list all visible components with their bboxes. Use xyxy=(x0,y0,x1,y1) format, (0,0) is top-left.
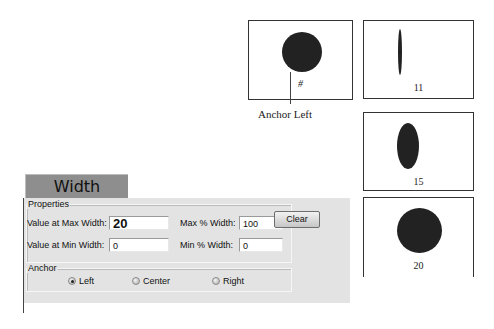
value-at-max-width-input[interactable]: 20 xyxy=(109,216,169,230)
example-ellipse xyxy=(397,208,442,253)
max-pct-width-label: Max % Width: xyxy=(180,218,236,228)
value-at-min-width-label: Value at Min Width: xyxy=(27,240,104,250)
example-card-20: 20 xyxy=(363,197,474,277)
anchor-center-radio[interactable]: Center xyxy=(132,276,170,286)
example-ellipse xyxy=(397,123,419,169)
radio-unselected-icon xyxy=(132,277,140,285)
anchor-right-label: Right xyxy=(223,276,244,286)
radio-selected-icon xyxy=(68,277,76,285)
anchor-group-label: Anchor xyxy=(27,263,58,273)
value-at-max-width-label: Value at Max Width: xyxy=(27,218,107,228)
example-value: 15 xyxy=(364,176,473,187)
preview-circle xyxy=(282,32,322,72)
radio-unselected-icon xyxy=(212,277,220,285)
properties-group-label: Properties xyxy=(27,199,70,209)
anchor-center-label: Center xyxy=(143,276,170,286)
value-at-min-width-input[interactable]: 0 xyxy=(109,238,169,252)
example-ellipse xyxy=(398,29,402,75)
anchor-left-label: Left xyxy=(79,276,94,286)
width-header: Width xyxy=(25,174,128,199)
clear-button[interactable]: Clear xyxy=(274,211,320,228)
anchor-right-radio[interactable]: Right xyxy=(212,276,244,286)
properties-group xyxy=(26,204,292,263)
min-pct-width-label: Min % Width: xyxy=(180,240,233,250)
example-card-11: 11 xyxy=(363,20,474,99)
anchor-left-radio[interactable]: Left xyxy=(68,276,94,286)
example-value: 20 xyxy=(364,260,473,271)
anchor-caption: Anchor Left xyxy=(258,108,312,120)
anchor-pointer-line xyxy=(290,72,291,104)
anchor-preview-box: # xyxy=(248,20,353,100)
preview-placeholder: # xyxy=(249,78,352,89)
min-pct-width-input[interactable]: 0 xyxy=(239,238,283,252)
example-card-15: 15 xyxy=(363,112,474,191)
example-value: 11 xyxy=(364,82,473,93)
